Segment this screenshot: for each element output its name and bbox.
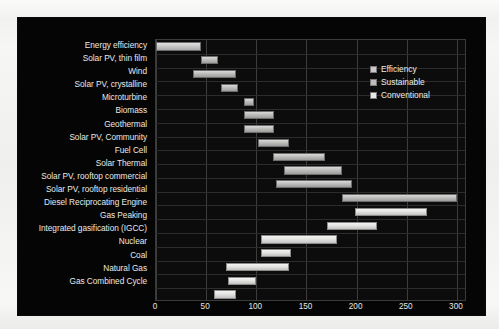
- range-bar[interactable]: [193, 70, 236, 78]
- category-label: Microturbine: [18, 91, 151, 104]
- range-bar[interactable]: [327, 222, 377, 230]
- bar-row: [156, 205, 465, 219]
- chart-panel: Energy efficiencySolar PV, thin filmWind…: [18, 18, 485, 315]
- legend-swatch-icon: [370, 92, 377, 99]
- category-label: Solar PV, Community: [18, 131, 151, 144]
- bar-row: [156, 274, 465, 288]
- bar-row: [156, 219, 465, 233]
- legend-label: Efficiency: [381, 64, 417, 74]
- range-bar[interactable]: [273, 153, 324, 161]
- bar-row: [156, 164, 465, 178]
- category-label: Diesel Reciprocating Engine: [18, 196, 151, 209]
- category-label: Geothermal: [18, 118, 151, 131]
- bar-row: [156, 123, 465, 137]
- category-axis-labels: Energy efficiencySolar PV, thin filmWind…: [18, 39, 151, 288]
- bar-row: [156, 40, 465, 54]
- category-label: Solar PV, rooftop residential: [18, 183, 151, 196]
- range-bar[interactable]: [226, 263, 289, 271]
- range-bar[interactable]: [261, 249, 291, 257]
- bar-row: [156, 109, 465, 123]
- legend-label: Conventional: [381, 90, 430, 100]
- category-label: Coal: [18, 249, 151, 262]
- category-label: Solar PV, crystalline: [18, 78, 151, 91]
- range-bar[interactable]: [228, 277, 256, 285]
- category-label: Gas Peaking: [18, 209, 151, 222]
- range-bar[interactable]: [214, 290, 236, 298]
- legend-swatch-icon: [370, 66, 377, 73]
- bar-row: [156, 261, 465, 275]
- legend-item[interactable]: Conventional: [370, 90, 430, 100]
- range-bar[interactable]: [284, 166, 341, 174]
- range-bar[interactable]: [244, 111, 274, 119]
- x-axis-tick-label: 150: [299, 302, 313, 311]
- bar-row: [156, 288, 465, 302]
- category-label: Integrated gasification (IGCC): [18, 222, 151, 235]
- legend-item[interactable]: Efficiency: [370, 64, 430, 74]
- category-label: Energy efficiency: [18, 39, 151, 52]
- x-axis-ticks: 050100150200250300: [155, 302, 466, 315]
- x-axis-tick-label: 300: [449, 302, 463, 311]
- range-bar[interactable]: [342, 194, 457, 202]
- bar-row: [156, 136, 465, 150]
- bar-row: [156, 247, 465, 261]
- x-axis-tick-label: 0: [153, 302, 158, 311]
- x-axis-tick-label: 50: [201, 302, 210, 311]
- category-label: Solar Thermal: [18, 157, 151, 170]
- chart-legend: EfficiencySustainableConventional: [370, 64, 430, 100]
- category-label: Solar PV, rooftop commercial: [18, 170, 151, 183]
- x-axis-tick-label: 100: [248, 302, 262, 311]
- bar-row: [156, 233, 465, 247]
- legend-label: Sustainable: [381, 77, 425, 87]
- bar-row: [156, 192, 465, 206]
- x-axis-tick-label: 200: [349, 302, 363, 311]
- range-bar[interactable]: [221, 84, 238, 92]
- category-label: Wind: [18, 65, 151, 78]
- category-label: Biomass: [18, 104, 151, 117]
- range-bar[interactable]: [201, 56, 218, 64]
- bar-row: [156, 150, 465, 164]
- legend-item[interactable]: Sustainable: [370, 77, 430, 87]
- legend-swatch-icon: [370, 79, 377, 86]
- range-bar[interactable]: [244, 125, 274, 133]
- bar-row: [156, 178, 465, 192]
- range-bar[interactable]: [156, 42, 201, 50]
- range-bar[interactable]: [276, 180, 351, 188]
- x-axis-tick-label: 250: [399, 302, 413, 311]
- range-bar[interactable]: [355, 208, 427, 216]
- range-bar[interactable]: [258, 139, 289, 147]
- category-label: Solar PV, thin film: [18, 52, 151, 65]
- chart-page: Energy efficiencySolar PV, thin filmWind…: [0, 0, 499, 329]
- category-label: Gas Combined Cycle: [18, 275, 151, 288]
- category-label: Fuel Cell: [18, 144, 151, 157]
- range-bar[interactable]: [244, 98, 254, 106]
- category-label: Natural Gas: [18, 262, 151, 275]
- category-label: Nuclear: [18, 235, 151, 248]
- range-bar[interactable]: [261, 235, 336, 243]
